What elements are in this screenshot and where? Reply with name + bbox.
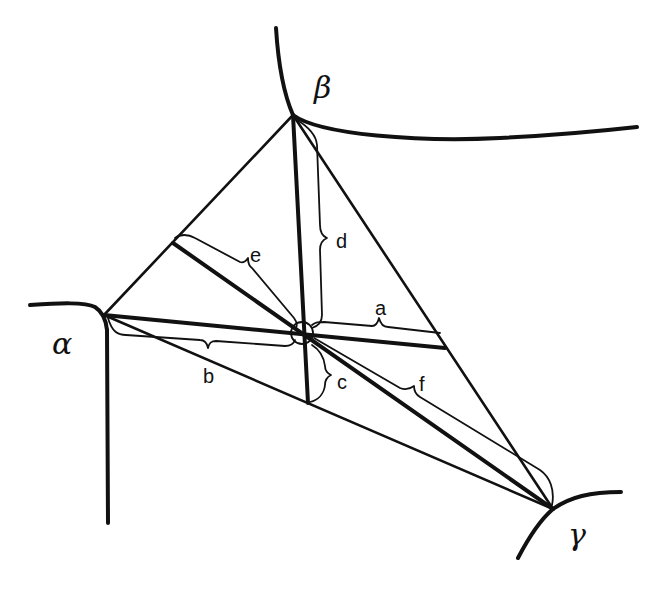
edge-alpha-beta bbox=[104, 115, 293, 315]
beta-vertical-boundary bbox=[276, 28, 293, 115]
label-a: a bbox=[375, 297, 387, 319]
label-alpha: α bbox=[52, 326, 72, 361]
edge-beta-gamma bbox=[293, 115, 553, 509]
cevian-from-alpha bbox=[104, 315, 445, 348]
alpha-vertical-boundary bbox=[107, 330, 108, 523]
label-beta: β bbox=[313, 70, 331, 105]
triangle-diagram: α β γ a b c d e f bbox=[0, 0, 666, 591]
bracket-e bbox=[175, 235, 297, 328]
label-d: d bbox=[336, 230, 347, 252]
edge-alpha-gamma bbox=[104, 315, 553, 509]
bracket-a bbox=[312, 318, 440, 333]
label-c: c bbox=[337, 371, 347, 393]
cevian-from-gamma bbox=[173, 243, 553, 509]
label-f: f bbox=[419, 373, 425, 395]
label-gamma: γ bbox=[568, 517, 586, 552]
label-e: e bbox=[250, 244, 261, 266]
cevian-from-beta bbox=[293, 115, 308, 403]
label-b: b bbox=[203, 365, 214, 387]
beta-horizontal-boundary bbox=[293, 115, 637, 139]
